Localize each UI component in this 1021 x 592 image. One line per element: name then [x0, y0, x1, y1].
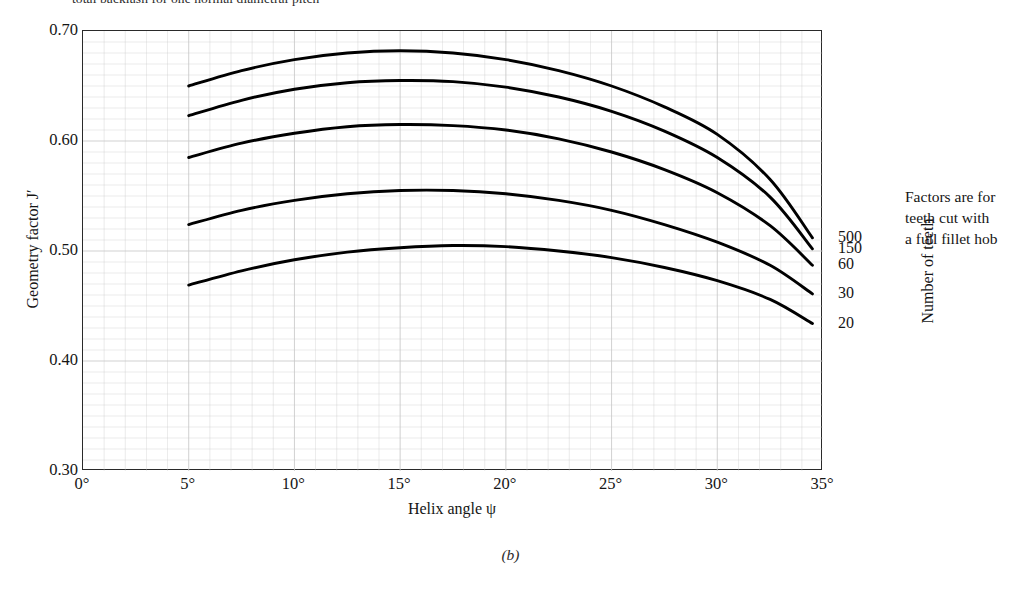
- figure-root: total backlash for one normal diametral …: [0, 0, 1021, 592]
- grid-layer: [83, 31, 823, 471]
- x-tick-label: 35°: [792, 475, 852, 493]
- y-tick-label: 0.70: [20, 22, 78, 38]
- top-note-text: total backlash for one normal diametral …: [72, 0, 492, 7]
- curve-label-150: 150: [838, 240, 884, 256]
- curve-label-30: 30: [838, 285, 884, 301]
- side-note-line-3: a full fillet hob: [905, 228, 1021, 249]
- x-tick-label: 0°: [52, 475, 112, 493]
- curve-label-60: 60: [838, 256, 884, 272]
- x-tick-label: 15°: [369, 475, 429, 493]
- curves-layer: [83, 31, 823, 471]
- x-tick-label: 20°: [475, 475, 535, 493]
- curve-label-20: 20: [838, 315, 884, 331]
- curve-30: [189, 190, 813, 294]
- x-tick-label: 30°: [686, 475, 746, 493]
- side-note: Factors are for teeth cut with a full fi…: [905, 186, 1021, 249]
- y-axis-title-text: Geometry factor J′: [24, 190, 41, 309]
- curve-60: [189, 124, 813, 265]
- x-tick-label: 25°: [581, 475, 641, 493]
- y-axis-title: Geometry factor J′: [24, 139, 42, 359]
- side-note-line-1: Factors are for: [905, 186, 1021, 207]
- side-note-line-2: teeth cut with: [905, 207, 1021, 228]
- x-axis-title-text: Helix angle ψ: [408, 500, 496, 517]
- x-tick-label: 10°: [263, 475, 323, 493]
- plot-area: [82, 30, 822, 470]
- figure-caption: (b): [0, 546, 1021, 564]
- curve-20: [189, 245, 813, 323]
- x-tick-label: 5°: [158, 475, 218, 493]
- curve-500: [189, 51, 813, 238]
- curve-150: [189, 80, 813, 248]
- x-axis-title: Helix angle ψ: [82, 500, 822, 518]
